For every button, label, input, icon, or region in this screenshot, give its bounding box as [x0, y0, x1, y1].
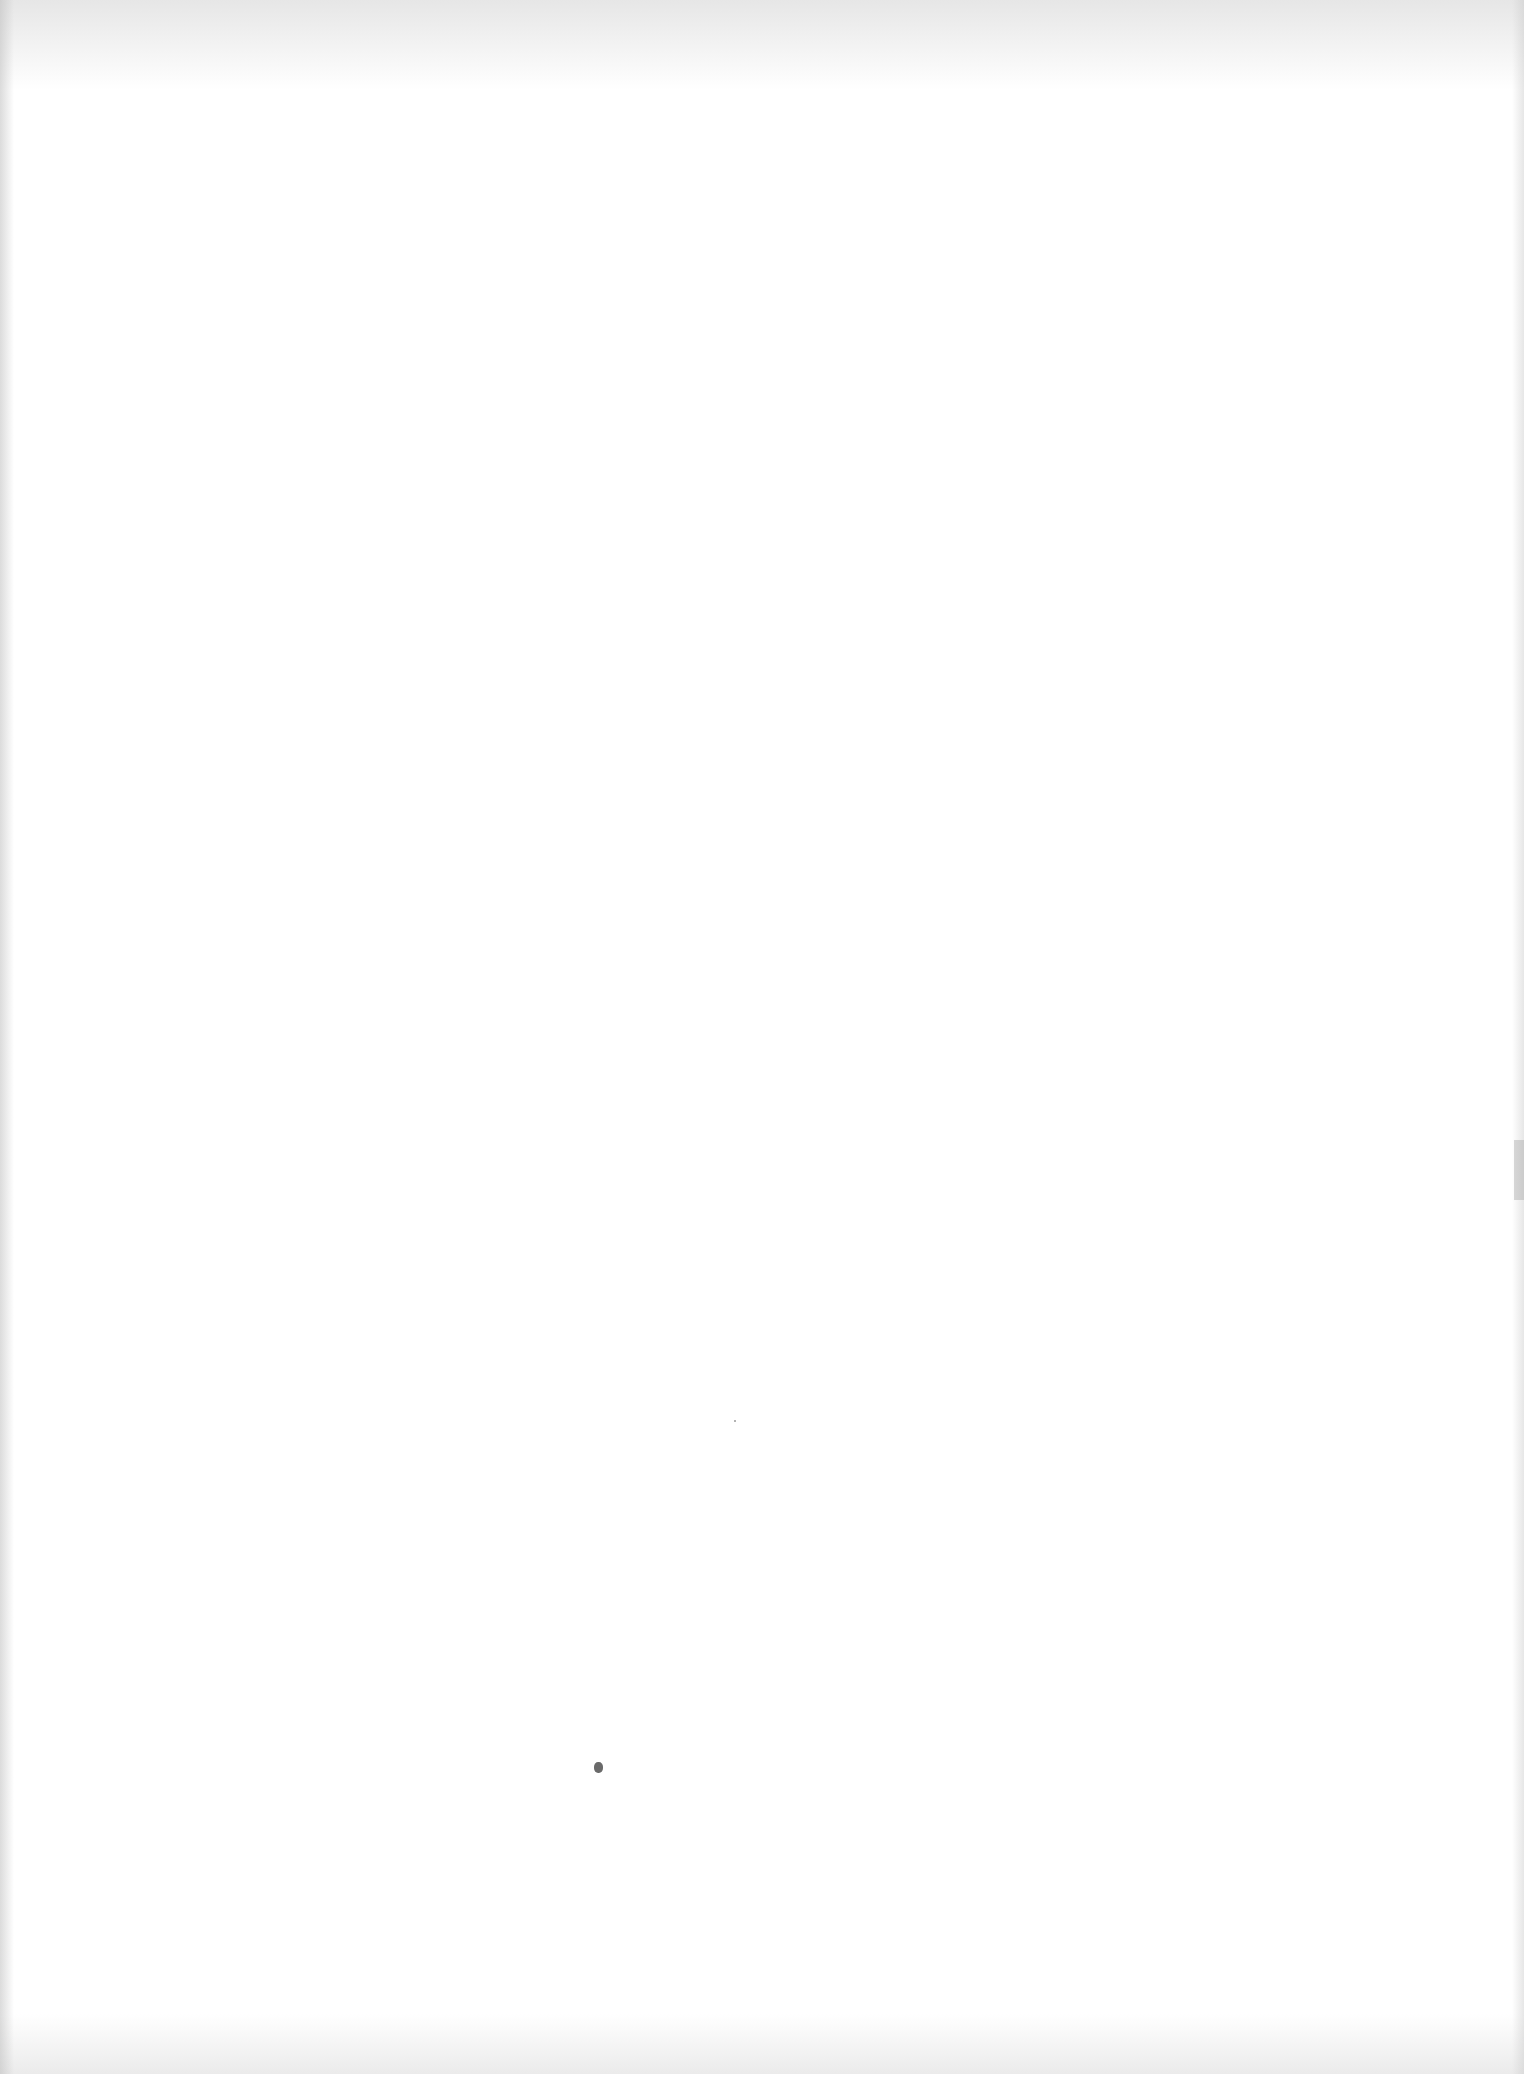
- scan-edge-shadow-top: [0, 0, 1524, 90]
- scan-edge-shadow-left: [0, 0, 14, 2074]
- scan-speck: [594, 1762, 603, 1773]
- scan-smudge: [1514, 1140, 1524, 1200]
- scan-edge-shadow-bottom: [0, 2014, 1524, 2074]
- blank-document-page: [0, 0, 1524, 2074]
- scan-dot: [734, 1420, 736, 1422]
- scan-edge-shadow-right: [1512, 0, 1524, 2074]
